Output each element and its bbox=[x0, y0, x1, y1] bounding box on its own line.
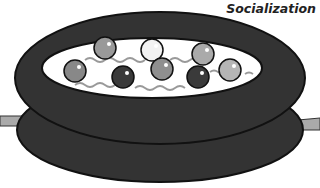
ball-highlight bbox=[164, 63, 168, 67]
ball bbox=[64, 60, 86, 82]
ball bbox=[94, 37, 116, 59]
ball-highlight bbox=[154, 44, 158, 48]
pool-illustration bbox=[0, 0, 320, 188]
ball-highlight bbox=[125, 71, 129, 75]
socialization-diagram: Socialization bbox=[0, 0, 320, 188]
ball bbox=[219, 59, 241, 81]
ball bbox=[192, 43, 214, 65]
ball-highlight bbox=[107, 42, 111, 46]
ball-highlight bbox=[205, 48, 209, 52]
ball bbox=[187, 66, 209, 88]
ball bbox=[151, 58, 173, 80]
ball-highlight bbox=[200, 71, 204, 75]
caption: Socialization bbox=[226, 1, 316, 16]
ball-highlight bbox=[232, 64, 236, 68]
ball bbox=[112, 66, 134, 88]
ball-highlight bbox=[77, 65, 81, 69]
